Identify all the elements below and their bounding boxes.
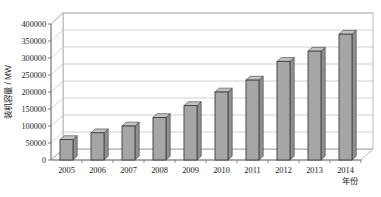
x-tick-label-2005: 2005 — [58, 166, 75, 175]
bar-2007[interactable] — [122, 126, 135, 160]
bar-side-face — [259, 76, 263, 160]
x-tick-label-2009: 2009 — [182, 166, 199, 175]
bar-2011[interactable] — [246, 80, 259, 160]
x-tick-label-2014: 2014 — [337, 166, 355, 175]
chart-figure: 400000 350000 300000 250000 200000 15000… — [0, 0, 381, 197]
bar-side-face — [135, 122, 139, 160]
bar-2008[interactable] — [153, 118, 166, 161]
bar-chart: 400000 350000 300000 250000 200000 15000… — [0, 0, 381, 197]
x-tick-label-2012: 2012 — [275, 166, 292, 175]
x-tick-label-2013: 2013 — [306, 166, 323, 175]
y-tick-label: 200000 — [21, 88, 46, 97]
bar-2010[interactable] — [215, 92, 228, 160]
y-tick-label: 400000 — [21, 20, 46, 29]
bar-side-face — [352, 30, 356, 160]
y-tick-label: 250000 — [21, 71, 46, 80]
x-tick-label-2008: 2008 — [151, 166, 168, 175]
bar-side-face — [104, 129, 108, 160]
y-tick-label: 350000 — [21, 37, 46, 46]
y-axis-title: 装机容量 / MW — [3, 65, 13, 119]
bar-2013[interactable] — [308, 51, 321, 160]
bar-2005[interactable] — [60, 140, 73, 160]
bar-side-face — [197, 102, 201, 160]
bar-2009[interactable] — [184, 106, 197, 160]
y-tick-label: 50000 — [26, 139, 46, 148]
y-tick-label: 100000 — [21, 122, 46, 131]
bar-side-face — [321, 47, 325, 160]
y-tick-label: 150000 — [21, 105, 46, 114]
x-tick-label-2007: 2007 — [120, 166, 137, 175]
bar-2006[interactable] — [91, 133, 104, 160]
x-tick-label-2011: 2011 — [244, 166, 260, 175]
y-tick-label: 0 — [42, 156, 46, 165]
bar-2014[interactable] — [339, 34, 352, 160]
x-tick-label-2010: 2010 — [213, 166, 230, 175]
y-tick-labels: 400000 350000 300000 250000 200000 15000… — [21, 20, 46, 165]
y-tick-label: 300000 — [21, 54, 46, 63]
x-axis-title: 年份 — [342, 176, 359, 186]
bar-side-face — [228, 88, 232, 160]
bar-side-face — [166, 114, 170, 160]
x-tick-label-2006: 2006 — [89, 166, 106, 175]
bar-2012[interactable] — [277, 61, 290, 160]
bar-side-face — [290, 58, 294, 160]
x-tick-labels: 2005200620072008200920102011201220132014 — [58, 166, 355, 175]
